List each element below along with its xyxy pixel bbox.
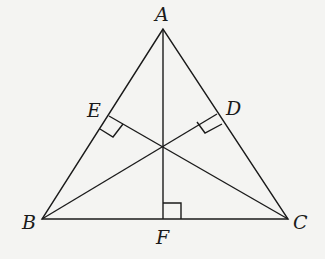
label-d: D [225,97,241,119]
right-angle-mark-f [163,203,181,219]
label-a: A [153,3,169,25]
label-f: F [155,226,170,248]
altitude-bd [42,114,217,219]
altitude-ce [109,116,288,219]
label-e: E [86,99,101,121]
label-c: C [293,211,308,233]
triangle-abc [42,29,288,219]
label-b: B [21,211,36,233]
triangle-diagram: A B C D E F [0,0,325,259]
right-angle-mark-e [100,124,123,137]
